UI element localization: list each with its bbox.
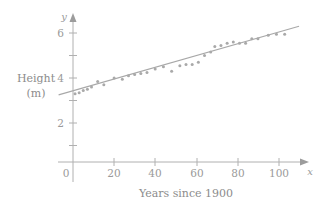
data-point [121, 78, 124, 81]
data-point [267, 34, 270, 37]
data-point [162, 65, 165, 68]
origin-label: 0 [63, 167, 70, 179]
data-point [145, 71, 148, 74]
data-point [226, 42, 229, 45]
trend-line [59, 26, 299, 95]
chart-page: 6 4 2 0 20 40 60 80 100 y x Height (m) Y… [0, 0, 322, 208]
data-point [244, 42, 247, 45]
data-point [203, 54, 206, 57]
data-point [86, 88, 89, 91]
data-point [154, 68, 157, 71]
x-axis-arrow-icon [300, 159, 309, 166]
data-point [96, 80, 99, 83]
data-point [209, 51, 212, 54]
data-point [113, 77, 116, 80]
data-point [127, 74, 130, 77]
data-point [213, 45, 216, 48]
data-point [219, 44, 222, 47]
x-axis-variable-label: x [307, 166, 313, 177]
data-point [232, 41, 235, 44]
data-point [139, 72, 142, 75]
data-point [90, 86, 93, 89]
data-point [275, 33, 278, 36]
x-tick-label-40: 40 [148, 167, 161, 179]
data-point [250, 37, 253, 40]
x-tick-label-80: 80 [231, 167, 244, 179]
data-point [185, 63, 188, 66]
data-point [283, 33, 286, 36]
data-point [102, 83, 105, 86]
data-point [191, 63, 194, 66]
scatter-plot: 6 4 2 0 20 40 60 80 100 y x Height (m) Y… [0, 0, 322, 208]
y-axis-variable-label: y [60, 11, 67, 22]
x-axis-title: Years since 1900 [138, 187, 233, 200]
data-point [238, 42, 241, 45]
y-tick-label-6: 6 [57, 27, 64, 39]
x-tick-label-60: 60 [190, 167, 203, 179]
data-point [82, 89, 85, 92]
y-tick-label-2: 2 [57, 117, 64, 129]
x-tick-label-100: 100 [269, 167, 289, 179]
data-points-group [74, 33, 287, 96]
data-point [178, 64, 181, 67]
data-point [170, 70, 173, 73]
data-point [78, 91, 81, 94]
y-axis-arrow-icon [70, 13, 77, 22]
y-axis-title-line1: Height [17, 72, 56, 85]
data-point [197, 61, 200, 64]
data-point [256, 37, 259, 40]
data-point [133, 73, 136, 76]
x-tick-label-20: 20 [107, 167, 120, 179]
data-point [74, 92, 77, 95]
y-tick-label-4: 4 [57, 72, 64, 84]
y-axis-title-line2: (m) [26, 87, 45, 100]
